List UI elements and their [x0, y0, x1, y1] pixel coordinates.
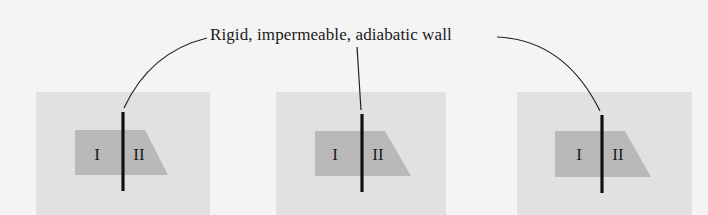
region-label-I-2: I [332, 146, 338, 163]
region-label-II-2: II [372, 146, 383, 163]
region-label-II-3: II [612, 146, 623, 163]
wall-caption: Rigid, impermeable, adiabatic wall [210, 25, 452, 45]
region-label-I-3: I [576, 146, 582, 163]
region-label-I-1: I [94, 146, 100, 163]
diagram-canvas: Rigid, impermeable, adiabatic wall I II … [0, 0, 708, 215]
leader-line-3 [497, 37, 600, 111]
leader-line-1 [124, 38, 207, 108]
region-label-II-1: II [133, 146, 144, 163]
leader-line-2 [357, 47, 361, 110]
